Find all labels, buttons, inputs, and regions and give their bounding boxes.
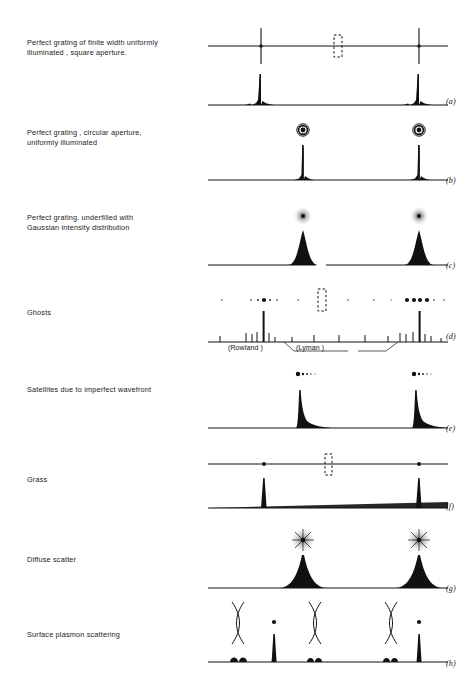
profile-peak-right-b xyxy=(410,145,430,180)
spot-point-right-h xyxy=(417,620,421,624)
profile-peak-right-g xyxy=(396,555,442,588)
profile-peak-left-g xyxy=(280,555,326,588)
row-label-a: Perfect grating of finite width uniforml… xyxy=(27,38,207,57)
spot-point-right-f xyxy=(417,462,421,466)
spot-cross-right-a xyxy=(417,28,420,64)
plasmon-arc-1-h xyxy=(232,602,244,644)
spot-cross-left-a xyxy=(259,28,262,64)
ghost-lines-d xyxy=(220,332,441,342)
gaussian-spot-left-c xyxy=(294,207,312,225)
profile-peak-left-d xyxy=(263,311,265,342)
spot-point-left-h xyxy=(272,620,276,624)
figure-row-c: Perfect grating. underfilled with Gaussi… xyxy=(0,195,474,280)
profile-peak-left-f xyxy=(261,478,267,508)
plasmon-arc-3-h xyxy=(385,602,397,644)
row-label-g: Diffuse scatter xyxy=(27,555,207,565)
figure-row-a: Perfect grating of finite width uniforml… xyxy=(0,0,474,110)
airy-spot-left-b xyxy=(297,124,309,136)
figure-canvas: Perfect grating of finite width uniforml… xyxy=(0,0,474,683)
profile-peak-right-d xyxy=(419,311,421,342)
gaussian-spot-right-c xyxy=(410,207,428,225)
airy-spot-right-b xyxy=(413,124,425,136)
plasmon-arc-2-h xyxy=(309,602,321,644)
row-d-diagram xyxy=(208,282,448,360)
figure-row-g: Diffuse scatter (g) xyxy=(0,522,474,602)
row-label-h: Surface plasmon scattering xyxy=(27,630,207,640)
figure-row-e: Satellites due to imperfect wavefront (e… xyxy=(0,362,474,442)
satellite-spot-right-e xyxy=(412,372,432,376)
row-g-diagram xyxy=(208,524,448,598)
figure-row-f: Grass (f) xyxy=(0,442,474,522)
row-label-b: Perfect grating , circular aperture, uni… xyxy=(27,128,207,147)
plasmon-bumps-h xyxy=(230,658,398,663)
row-label-d: Ghosts xyxy=(27,308,207,318)
row-c-diagram xyxy=(208,203,448,275)
dashed-aperture-box-d xyxy=(318,289,326,311)
grass-floor-f xyxy=(208,502,448,508)
profile-peak-left-a xyxy=(244,74,274,105)
profile-peak-right-e xyxy=(412,390,448,428)
profile-peak-left-h xyxy=(272,634,277,662)
starburst-spot-right-g xyxy=(408,529,430,551)
profile-peak-right-c xyxy=(404,230,434,265)
row-label-c: Perfect grating. underfilled with Gaussi… xyxy=(27,213,207,232)
row-label-f: Grass xyxy=(27,475,207,485)
figure-row-b: Perfect grating , circular aperture, uni… xyxy=(0,110,474,195)
profile-peak-left-c xyxy=(288,230,318,265)
satellite-spot-left-e xyxy=(296,372,316,376)
profile-peak-right-h xyxy=(417,634,422,662)
profile-peak-right-f xyxy=(416,478,422,508)
row-h-diagram xyxy=(208,598,448,672)
row-f-diagram xyxy=(208,446,448,518)
profile-peak-right-a xyxy=(402,74,432,105)
row-label-e: Satellites due to imperfect wavefront xyxy=(27,385,227,395)
row-e-diagram xyxy=(208,366,448,438)
starburst-spot-left-g xyxy=(292,529,314,551)
annotation-leaders-d xyxy=(284,342,398,351)
profile-peak-left-e xyxy=(296,390,332,428)
spot-point-left-f xyxy=(262,462,266,466)
ghost-spots-d xyxy=(221,298,444,302)
profile-peak-left-b xyxy=(294,145,314,180)
row-a-diagram xyxy=(208,22,448,112)
figure-row-d: Ghosts (d) (Rowland ) (Lyman ) xyxy=(0,280,474,370)
row-b-diagram xyxy=(208,118,448,190)
figure-row-h: Surface plasmon scattering (h) xyxy=(0,596,474,676)
